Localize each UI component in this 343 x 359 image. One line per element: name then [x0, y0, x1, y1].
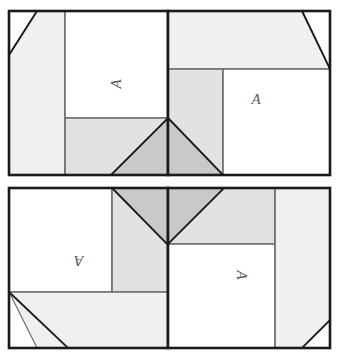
tr-letter-a: A — [250, 91, 261, 107]
bl-white-square — [9, 188, 112, 292]
dissection-figure-root: A A — [0, 0, 343, 359]
panel-bottom-left: A — [9, 188, 168, 348]
br-right-column-region — [275, 188, 330, 348]
panel-bottom-right: A — [168, 188, 330, 348]
panel-top-right: A — [168, 11, 330, 175]
panel-top-left: A — [9, 11, 168, 175]
bl-letter-a: A — [74, 253, 85, 269]
br-white-square — [168, 244, 275, 348]
tl-letter-a: A — [108, 79, 124, 90]
br-letter-a: A — [234, 269, 250, 280]
dissection-diagram: A A — [0, 0, 343, 359]
tr-white-square — [223, 69, 330, 175]
tl-white-square — [65, 11, 168, 118]
